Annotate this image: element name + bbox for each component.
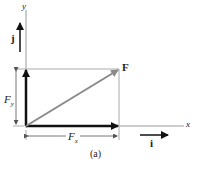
force-label: F — [122, 62, 129, 73]
unit-j-label: j — [11, 33, 15, 44]
fx-label: Fx — [66, 131, 80, 145]
unit-i-label: i — [150, 138, 153, 149]
fy-label: Fy — [4, 94, 14, 108]
resultant-f-vector — [26, 70, 118, 126]
y-axis-label: y — [22, 2, 26, 11]
vector-diagram — [0, 0, 200, 169]
figure-caption: (a) — [90, 149, 101, 159]
x-axis-label: x — [186, 120, 190, 129]
